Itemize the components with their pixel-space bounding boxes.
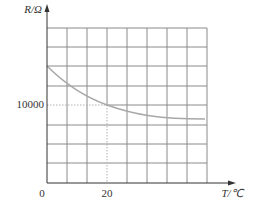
origin-label: 0 — [39, 187, 45, 199]
y-axis-label: R/Ω — [23, 3, 42, 15]
y-tick-10000: 10000 — [17, 98, 45, 110]
x-axis-label: T/℃ — [221, 187, 244, 199]
chart: R/Ω T/℃ 10000 0 20 — [0, 0, 254, 208]
x-tick-20: 20 — [102, 187, 114, 199]
resistance-curve — [47, 66, 205, 119]
x-axis-arrow-icon — [228, 181, 236, 186]
y-axis-arrow-icon — [45, 4, 50, 12]
axes — [47, 8, 232, 183]
